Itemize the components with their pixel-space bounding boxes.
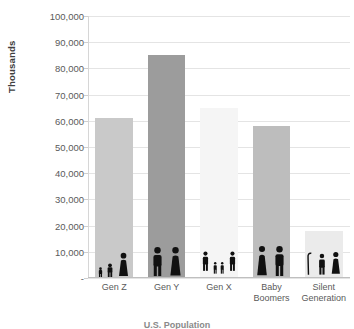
- y-tick-label: 80,000: [32, 63, 84, 74]
- bar-chart: Thousands -10,00020,00030,00040,00050,00…: [0, 0, 354, 329]
- bar[interactable]: [95, 118, 133, 278]
- x-tick-label: Gen Y: [140, 282, 192, 293]
- y-tick-label: 30,000: [32, 194, 84, 205]
- bar-slot: [298, 16, 350, 278]
- bar-slot: [88, 16, 140, 278]
- y-tick-label: 100,000: [32, 11, 84, 22]
- y-tick-label: 90,000: [32, 37, 84, 48]
- bar[interactable]: [200, 108, 238, 278]
- y-tick-mark: [84, 278, 88, 279]
- y-tick-label: 70,000: [32, 89, 84, 100]
- x-tick-label: Baby Boomers: [245, 282, 297, 304]
- bar[interactable]: [148, 55, 186, 278]
- bar-slot: [193, 16, 245, 278]
- y-tick-label: 20,000: [32, 220, 84, 231]
- y-axis-tick-labels: -10,00020,00030,00040,00050,00060,00070,…: [22, 16, 84, 278]
- bar[interactable]: [253, 126, 291, 278]
- y-tick-label: 60,000: [32, 115, 84, 126]
- x-axis-tick-labels: Gen ZGen YGen XBaby BoomersSilent Genera…: [88, 282, 350, 312]
- gridline: [88, 278, 350, 279]
- baby-toddler-woman-icons: [95, 232, 133, 278]
- y-tick-label: 40,000: [32, 168, 84, 179]
- man-woman-couple-icons: [253, 232, 291, 278]
- chart-title: U.S. Population: [0, 320, 354, 329]
- bar[interactable]: [305, 231, 343, 278]
- x-tick-label: Gen X: [193, 282, 245, 293]
- plot-area: [88, 16, 350, 278]
- elderly-man-elderly-woman-icons: [305, 232, 343, 278]
- x-axis-line: [88, 277, 350, 278]
- x-tick-label: Gen Z: [88, 282, 140, 293]
- y-tick-label: 10,000: [32, 246, 84, 257]
- bar-slot: [245, 16, 297, 278]
- family-parents-children-icons: [200, 232, 238, 278]
- bar-slot: [140, 16, 192, 278]
- y-tick-label: 50,000: [32, 142, 84, 153]
- young-man-young-woman-icons: [148, 232, 186, 278]
- bar-series: [88, 16, 350, 278]
- y-axis-title: Thousands: [4, 22, 18, 112]
- x-tick-label: Silent Generation: [298, 282, 350, 304]
- y-tick-label: -: [32, 273, 84, 284]
